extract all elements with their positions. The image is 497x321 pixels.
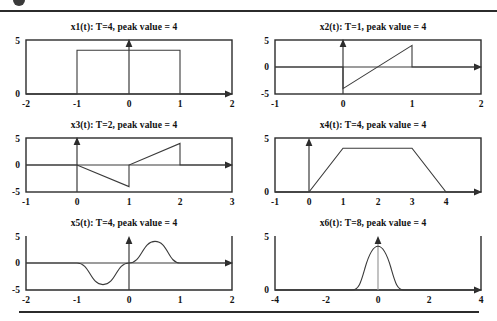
xtick-label-0: -2 bbox=[22, 295, 30, 305]
plot-title-x1: x1(t): T=4, peak value = 4 bbox=[0, 22, 248, 32]
plot-canvas-x2: 5 0 -5 -1 0 1 2 bbox=[249, 34, 497, 112]
xtick-label-1: -1 bbox=[73, 99, 81, 109]
waveform-trace bbox=[26, 143, 232, 186]
xtick-label-0: -1 bbox=[22, 197, 30, 207]
plot-panel-x3: x3(t): T=2, peak value = 4 5 0 -5 -1 0 1 bbox=[0, 116, 248, 214]
plot-title-x2: x2(t): T=1, peak value = 4 bbox=[249, 22, 497, 32]
ytick-label-mid: 0 bbox=[264, 62, 269, 72]
svg-x3: 5 0 -5 -1 0 1 2 3 bbox=[0, 132, 248, 210]
plot-canvas-x3: 5 0 -5 -1 0 1 2 3 bbox=[0, 132, 248, 210]
xtick-label-1: 0 bbox=[307, 197, 312, 207]
xtick-label-3: 2 bbox=[178, 197, 183, 207]
y-axis-arrow-icon bbox=[375, 236, 382, 244]
xtick-label-4: 4 bbox=[479, 295, 484, 305]
corner-artifact-icon bbox=[13, 0, 25, 6]
xtick-label-2: 0 bbox=[127, 99, 132, 109]
xtick-label-5: 4 bbox=[444, 197, 449, 207]
xtick-label-1: 0 bbox=[341, 99, 346, 109]
ytick-label-bottom: 0 bbox=[264, 187, 269, 197]
xtick-label-2: 0 bbox=[127, 295, 132, 305]
ytick-label-top: 5 bbox=[264, 232, 269, 242]
xtick-label-2: 1 bbox=[127, 197, 132, 207]
plot-panel-x6: x6(t): T=8, peak value = 4 bbox=[249, 214, 497, 312]
plot-canvas-x1: 5 0 -2 -1 0 1 2 bbox=[0, 34, 248, 112]
svg-x6: 5 0 -4 -2 0 2 4 bbox=[249, 230, 497, 308]
xtick-label-2: 1 bbox=[410, 99, 415, 109]
axes-frame bbox=[275, 138, 481, 192]
ytick-label-bottom: 0 bbox=[15, 89, 20, 99]
xtick-label-3: 2 bbox=[376, 197, 381, 207]
xtick-label-0: -2 bbox=[22, 99, 30, 109]
plot-canvas-x5: 5 0 -5 -2 -1 0 1 2 bbox=[0, 230, 248, 308]
plot-title-x3: x3(t): T=2, peak value = 4 bbox=[0, 120, 248, 130]
xtick-label-0: -4 bbox=[271, 295, 279, 305]
svg-x5: 5 0 -5 -2 -1 0 1 2 bbox=[0, 230, 248, 308]
ytick-label-bottom: 0 bbox=[264, 285, 269, 295]
xtick-label-3: 1 bbox=[178, 99, 183, 109]
xtick-label-4: 3 bbox=[230, 197, 235, 207]
ytick-label-bottom: -5 bbox=[261, 89, 269, 99]
plot-canvas-x6: 5 0 -4 -2 0 2 4 bbox=[249, 230, 497, 308]
y-axis-arrow-icon bbox=[126, 236, 133, 244]
ytick-label-top: 5 bbox=[264, 36, 269, 46]
xtick-label-3: 2 bbox=[427, 295, 432, 305]
plot-panel-x1: x1(t): T=4, peak value = 4 5 0 bbox=[0, 18, 248, 116]
plot-panel-x4: x4(t): T=4, peak value = 4 5 0 -1 0 1 2 bbox=[249, 116, 497, 214]
svg-x2: 5 0 -5 -1 0 1 2 bbox=[249, 34, 497, 112]
xtick-label-2: 1 bbox=[341, 197, 346, 207]
xtick-label-4: 2 bbox=[230, 295, 235, 305]
ytick-label-bottom: -5 bbox=[12, 187, 20, 197]
xtick-label-3: 2 bbox=[479, 99, 484, 109]
xtick-label-4: 2 bbox=[230, 99, 235, 109]
plot-title-x5: x5(t): T=4, peak value = 4 bbox=[0, 218, 248, 228]
plot-title-x4: x4(t): T=4, peak value = 4 bbox=[249, 120, 497, 130]
ytick-label-top: 5 bbox=[15, 134, 20, 144]
plot-canvas-x4: 5 0 -1 0 1 2 3 4 bbox=[249, 132, 497, 210]
plot-panel-x2: x2(t): T=1, peak value = 4 5 0 -5 -1 bbox=[249, 18, 497, 116]
xtick-label-4: 3 bbox=[410, 197, 415, 207]
plot-panel-x5: x5(t): T=4, peak value = 4 bbox=[0, 214, 248, 312]
svg-x4: 5 0 -1 0 1 2 3 4 bbox=[249, 132, 497, 210]
xtick-label-0: -1 bbox=[271, 197, 279, 207]
xtick-label-3: 1 bbox=[178, 295, 183, 305]
header-divider bbox=[0, 10, 497, 12]
ytick-label-mid: 0 bbox=[15, 258, 20, 268]
xtick-label-1: 0 bbox=[75, 197, 80, 207]
xtick-label-1: -1 bbox=[73, 295, 81, 305]
xtick-label-2: 0 bbox=[376, 295, 381, 305]
ytick-label-mid: 0 bbox=[15, 160, 20, 170]
svg-x1: 5 0 -2 -1 0 1 2 bbox=[0, 34, 248, 112]
figure-page: x1(t): T=4, peak value = 4 5 0 bbox=[0, 0, 497, 321]
waveform-trace bbox=[275, 45, 481, 88]
ytick-label-top: 5 bbox=[15, 232, 20, 242]
xtick-label-0: -1 bbox=[271, 99, 279, 109]
footer-divider bbox=[19, 311, 479, 313]
ytick-label-bottom: -5 bbox=[12, 285, 20, 295]
plot-grid: x1(t): T=4, peak value = 4 5 0 bbox=[0, 16, 497, 312]
xtick-label-1: -2 bbox=[322, 295, 330, 305]
ytick-label-top: 5 bbox=[15, 36, 20, 46]
waveform-trace bbox=[275, 148, 481, 192]
plot-title-x6: x6(t): T=8, peak value = 4 bbox=[249, 218, 497, 228]
y-axis-arrow-icon bbox=[306, 138, 313, 146]
ytick-label-top: 5 bbox=[264, 134, 269, 144]
